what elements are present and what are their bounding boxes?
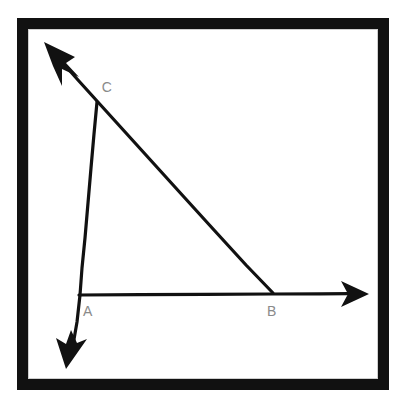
vertex-label-B: B xyxy=(267,303,277,319)
vertex-label-A: A xyxy=(83,303,93,319)
geometry-figure-container: Geometric figure: triangle ABC formed by… xyxy=(0,0,406,407)
vertex-label-C: C xyxy=(102,79,113,95)
ray-horizontal-line xyxy=(79,294,349,295)
geometry-diagram: Geometric figure: triangle ABC formed by… xyxy=(0,0,406,407)
